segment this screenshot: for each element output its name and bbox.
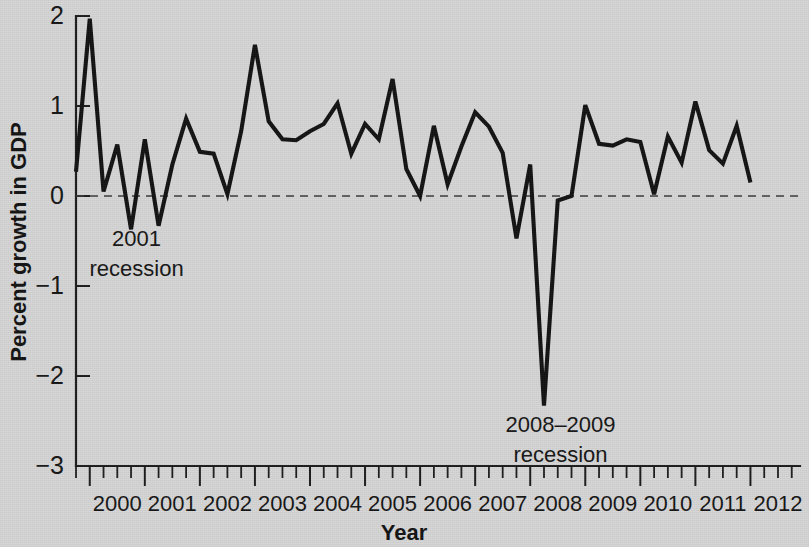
x-tick-label: 2011 bbox=[699, 491, 746, 516]
annotation-line-1: 2001 bbox=[112, 226, 161, 251]
x-tick-label: 2000 bbox=[93, 491, 142, 516]
y-tick-label: −2 bbox=[35, 361, 64, 389]
x-tick-label: 2003 bbox=[258, 491, 307, 516]
y-axis-title: Percent growth in GDP bbox=[6, 122, 31, 362]
annotation-line-1: 2008–2009 bbox=[505, 412, 615, 437]
gdp-growth-line-chart: 210−1−2−3 200020012002200320042005200620… bbox=[0, 0, 809, 547]
gdp-growth-series-line bbox=[76, 19, 750, 406]
annotation-line-2: recession bbox=[513, 442, 607, 467]
chart-page: 210−1−2−3 200020012002200320042005200620… bbox=[0, 0, 809, 547]
x-tick-label: 2008 bbox=[533, 491, 582, 516]
x-tick-label: 2006 bbox=[423, 491, 472, 516]
annotation-recession-2001: 2001recession bbox=[89, 226, 183, 281]
x-tick-label: 2007 bbox=[478, 491, 527, 516]
x-tick-label: 2002 bbox=[203, 491, 252, 516]
y-tick-label: −1 bbox=[35, 271, 64, 299]
annotation-recession-2008-2009: 2008–2009recession bbox=[505, 412, 615, 467]
y-tick-label: 1 bbox=[50, 91, 64, 119]
y-tick-label: 0 bbox=[50, 181, 64, 209]
x-tick-label: 2004 bbox=[313, 491, 362, 516]
x-tick-label: 2012 bbox=[754, 491, 803, 516]
y-axis-tick-labels: 210−1−2−3 bbox=[35, 1, 64, 479]
axes-group bbox=[76, 16, 800, 486]
x-axis-ticks bbox=[76, 466, 792, 486]
x-tick-label: 2010 bbox=[643, 491, 692, 516]
x-tick-label: 2009 bbox=[588, 491, 637, 516]
x-tick-label: 2005 bbox=[368, 491, 417, 516]
x-axis-tick-labels: 2000200120022003200420052006200720082009… bbox=[93, 491, 803, 516]
x-axis-title: Year bbox=[381, 520, 428, 545]
x-tick-label: 2001 bbox=[148, 491, 197, 516]
y-tick-label: 2 bbox=[50, 1, 64, 29]
annotation-line-2: recession bbox=[89, 256, 183, 281]
y-tick-label: −3 bbox=[35, 451, 64, 479]
